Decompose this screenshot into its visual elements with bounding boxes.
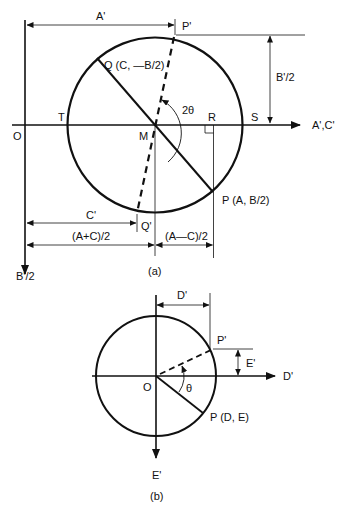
label-o-b: O [143,381,152,393]
label-b-prime-half-right: B'/2 [276,71,295,83]
label-c-prime: C' [86,209,96,221]
radius-OP [156,376,203,413]
label-theta: θ [186,382,192,394]
label-r: R [208,111,216,123]
label-a-plus-c-half: (A+C)/2 [72,230,110,242]
label-d-prime-dim: D' [177,289,187,301]
caption-a: (a) [148,265,161,277]
label-p-b: P (D, E) [210,411,249,423]
radius-OPprime [160,350,211,374]
label-q-prime: Q' [141,220,152,232]
label-s: S [251,111,258,123]
label-y-axis-b: E' [152,469,161,481]
label-a-prime: A' [96,10,105,22]
mohr-circle-diagram: A' P' Q (C, —B/2) B'/2 2θ T R S O M A',C… [0,0,352,513]
label-y-axis-a: B'/2 [16,270,35,282]
label-t: T [58,111,65,123]
theta-arc [179,366,184,392]
label-a-minus-c-half: (A—C)/2 [165,230,208,242]
figure-a: A' P' Q (C, —B/2) B'/2 2θ T R S O M A',C… [12,10,335,282]
label-two-theta: 2θ [182,104,194,116]
caption-b: (b) [150,490,163,502]
label-x-axis-a: A',C' [312,119,335,131]
label-p-a: P (A, B/2) [222,194,269,206]
figure-b: D' P' E' D' O θ P (D, E) E' (b) [92,289,293,502]
right-angle-mark [205,125,214,133]
label-o-a: O [13,130,22,142]
label-e-prime-dim: E' [246,357,255,369]
label-x-axis-b: D' [283,370,293,382]
label-q: Q (C, —B/2) [104,59,165,71]
label-m: M [139,130,148,142]
label-p-prime-b: P' [217,334,226,346]
label-p-prime-a: P' [182,20,191,32]
